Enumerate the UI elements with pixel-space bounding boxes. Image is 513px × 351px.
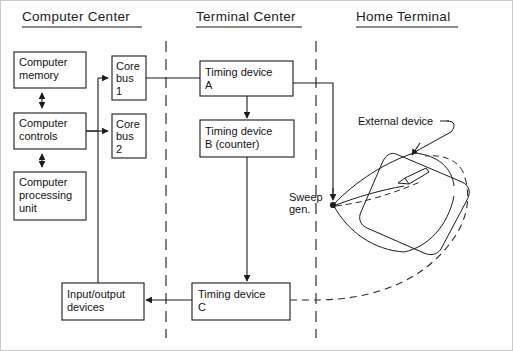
box-computer-memory: Computer memory [14,52,86,88]
box-computer-processing-unit-line1: Computer [19,176,68,188]
box-computer-processing-unit: Computer processing unit [14,172,86,220]
box-input-output-devices-line2: devices [67,301,105,313]
external-device-slot [405,168,429,184]
block-diagram-svg: Computer Center Terminal Center Home Ter… [0,0,513,351]
box-core-bus-1: Core bus 1 [112,56,146,100]
box-input-output-devices-line1: Input/output [67,288,125,300]
box-computer-processing-unit-line3: unit [19,202,37,214]
box-timing-device-a: Timing device A [200,61,293,96]
box-timing-device-a-line1: Timing device [205,66,272,78]
section-title-computer-center-label: Computer Center [22,9,130,24]
diagram-canvas: Computer Center Terminal Center Home Ter… [0,0,513,351]
sweep-gen-annotation: Sweep gen. [289,191,323,215]
section-title-terminal-center: Terminal Center [196,9,302,27]
section-title-terminal-center-label: Terminal Center [196,9,296,24]
box-computer-processing-unit-line2: processing [19,189,72,201]
box-core-bus-1-line3: 1 [116,85,122,97]
section-title-home-terminal-label: Home Terminal [356,9,450,24]
box-core-bus-1-line1: Core [116,60,140,72]
external-device-cone-mid-edge [336,186,404,205]
box-core-bus-2-line1: Core [116,118,140,130]
external-device-leader-elbow [447,121,454,132]
external-device-cone-hidden-edge [336,182,420,206]
external-device-cone-top-edge [334,153,414,204]
box-timing-device-c-line1: Timing device [198,288,265,300]
connector-controls-core-bus-1-path [86,78,98,131]
box-core-bus-2: Core bus 2 [112,114,146,158]
external-device-rim-near [404,196,454,252]
external-device-rim-far [414,153,454,186]
box-computer-controls: Computer controls [14,113,86,149]
box-timing-device-a-line2: A [205,79,213,91]
external-device-rim-hidden [425,156,463,172]
box-timing-device-b-line1: Timing device [205,125,272,137]
box-core-bus-2-line2: bus [116,130,134,142]
external-device-leader-line [413,132,451,153]
box-computer-memory-line1: Computer [19,56,68,68]
section-title-computer-center: Computer Center [22,9,142,27]
box-computer-controls-line2: controls [19,130,58,142]
box-timing-device-c: Timing device C [192,283,290,320]
connector-timing-a-sweep-gen-path [293,83,333,193]
sweep-gen-line1: Sweep [289,191,323,203]
box-timing-device-b-line2: B (counter) [205,138,259,150]
box-computer-memory-line2: memory [19,69,59,81]
section-title-home-terminal: Home Terminal [356,9,458,27]
box-input-output-devices: Input/output devices [62,283,144,320]
box-computer-controls-line1: Computer [19,117,68,129]
box-timing-device-b: Timing device B (counter) [200,120,294,157]
box-core-bus-2-line3: 2 [116,143,122,155]
box-core-bus-1-line2: bus [116,72,134,84]
sweep-gen-line2: gen. [289,203,310,215]
external-device-label: External device [358,115,433,127]
box-timing-device-c-line2: C [198,301,206,313]
